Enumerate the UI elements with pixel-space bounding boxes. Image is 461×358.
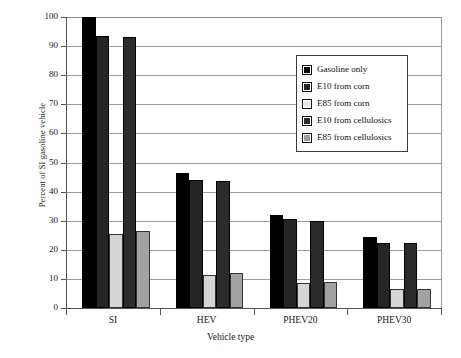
x-axis-tick-label-phev30: PHEV30 [349, 315, 439, 325]
legend-swatch-icon [303, 100, 311, 108]
bar-hev-series-2 [203, 275, 217, 308]
x-axis-title: Vehicle type [0, 332, 461, 342]
y-axis-tick-label: 0 [24, 303, 58, 312]
y-axis-tick [61, 17, 67, 18]
bar-hev-series-3 [216, 181, 230, 308]
bar-phev30-series-3 [404, 243, 418, 308]
y-axis-tick-label: 50 [24, 158, 58, 167]
bar-si-series-4 [136, 231, 150, 308]
x-axis-tick-label-phev20: PHEV20 [255, 315, 345, 325]
y-axis-tick-label: 80 [24, 70, 58, 79]
bar-si-series-0 [82, 17, 96, 308]
x-axis-tick [441, 308, 442, 315]
bar-phev30-series-4 [417, 289, 431, 308]
bar-si-series-3 [123, 37, 137, 308]
y-axis-tick [61, 279, 67, 280]
legend-swatch-icon [303, 83, 311, 91]
bar-phev20-series-3 [310, 221, 324, 308]
bar-phev20-series-2 [297, 283, 311, 308]
y-axis-tick-label: 10 [24, 274, 58, 283]
legend-item-0[interactable]: Gasoline only [303, 61, 403, 78]
y-axis-tick-label: 30 [24, 216, 58, 225]
y-axis-tick [61, 221, 67, 222]
legend-label: Gasoline only [317, 65, 367, 74]
x-axis-tick [347, 308, 348, 315]
y-axis-tick-label: 60 [24, 128, 58, 137]
legend-label: E85 from corn [317, 99, 369, 108]
bar-hev-series-1 [189, 180, 203, 308]
legend-item-4[interactable]: E85 from cellulosics [303, 129, 403, 146]
y-axis-title: Percent of SI gasoline vehicle [37, 55, 47, 255]
legend-item-1[interactable]: E10 from corn [303, 78, 403, 95]
legend-label: E10 from corn [317, 82, 369, 91]
bar-si-series-2 [109, 234, 123, 308]
gridline [67, 17, 442, 18]
bar-hev-series-0 [176, 173, 190, 308]
y-axis-tick-label: 70 [24, 99, 58, 108]
x-axis-tick-label-hev: HEV [162, 315, 252, 325]
x-axis-tick [160, 308, 161, 315]
bar-phev30-series-1 [377, 243, 391, 308]
y-axis-tick [61, 104, 67, 105]
legend: Gasoline onlyE10 from cornE85 from cornE… [296, 55, 408, 152]
bar-phev30-series-0 [363, 237, 377, 308]
bar-phev20-series-0 [270, 215, 284, 308]
x-axis-tick [254, 308, 255, 315]
bar-phev30-series-2 [390, 289, 404, 308]
y-axis-tick-label: 20 [24, 245, 58, 254]
y-axis-tick [61, 163, 67, 164]
y-axis-tick-label: 40 [24, 187, 58, 196]
legend-swatch-icon [303, 134, 311, 142]
legend-item-3[interactable]: E10 from cellulosics [303, 112, 403, 129]
y-axis-tick [61, 192, 67, 193]
bar-phev20-series-4 [324, 282, 338, 308]
legend-label: E85 from cellulosics [317, 133, 391, 142]
y-axis-tick [61, 75, 67, 76]
y-axis-tick [61, 133, 67, 134]
y-axis-tick [61, 250, 67, 251]
legend-item-2[interactable]: E85 from corn [303, 95, 403, 112]
plot-right-border [441, 17, 442, 308]
y-axis-tick [61, 46, 67, 47]
y-axis-tick-label: 100 [24, 12, 58, 21]
x-axis-tick-label-si: SI [68, 315, 158, 325]
bar-hev-series-4 [230, 273, 244, 308]
legend-swatch-icon [303, 117, 311, 125]
bar-si-series-1 [96, 36, 110, 308]
legend-swatch-icon [303, 66, 311, 74]
x-axis-tick [66, 308, 67, 315]
bar-phev20-series-1 [283, 219, 297, 308]
bar-chart: Percent of SI gasoline vehicle 010203040… [0, 0, 461, 358]
y-axis-tick-label: 90 [24, 41, 58, 50]
legend-label: E10 from cellulosics [317, 116, 391, 125]
